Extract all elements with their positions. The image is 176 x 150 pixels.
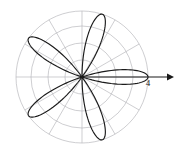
horizontal-axis xyxy=(82,74,174,81)
polar-rose-figure: 4 xyxy=(0,0,176,150)
rose-petal-144deg xyxy=(28,37,82,77)
rose-petal-216deg xyxy=(28,77,82,117)
axis-arrow-head xyxy=(167,74,174,81)
axis-scale-label: 4 xyxy=(146,78,151,88)
polar-plot-canvas: 4 xyxy=(0,0,176,150)
rose-petal-72deg xyxy=(82,14,105,77)
rose-petal-288deg xyxy=(82,77,105,140)
